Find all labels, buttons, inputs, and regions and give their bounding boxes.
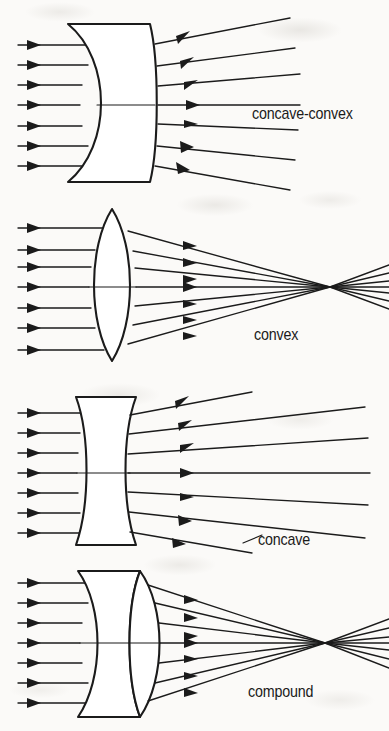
label-convex: convex: [254, 325, 298, 345]
lens-shape-biconcave: [76, 397, 136, 545]
lens-shape-meniscus: [68, 24, 157, 182]
panel-convex: [0, 195, 389, 375]
label-compound: compound: [248, 682, 313, 702]
outgoing-rays-group: [128, 392, 370, 553]
post-focal-rays-group: [325, 619, 389, 668]
lens-diagram-page: concave-convex: [0, 0, 389, 731]
post-focal-rays-group: [330, 265, 389, 309]
ray-diagram-compound: [0, 555, 389, 731]
outgoing-arrowheads: [176, 31, 200, 174]
panel-compound: [0, 555, 389, 731]
label-concave-convex: concave-convex: [252, 104, 353, 124]
incoming-arrowheads: [27, 578, 41, 708]
outgoing-rays-group: [128, 231, 330, 344]
lens-shape-biconvex-element: [130, 571, 160, 717]
panel-concave: [0, 375, 389, 555]
outgoing-arrowheads: [172, 396, 194, 548]
lens-shape-biconvex: [94, 209, 130, 361]
label-concave: concave: [258, 530, 310, 550]
ray-diagram-concave: [0, 375, 389, 555]
incoming-arrowheads: [27, 223, 41, 355]
panel-concave-convex: [0, 0, 389, 195]
ray-diagram-convex: [0, 195, 389, 375]
incoming-arrowheads: [27, 40, 41, 171]
ray-diagram-concave-convex: [0, 0, 389, 195]
incoming-arrowheads: [27, 408, 41, 538]
